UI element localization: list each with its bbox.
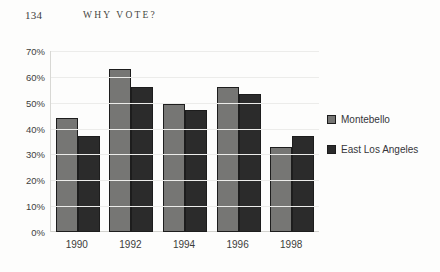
bar-groups <box>51 51 319 232</box>
y-axis-tick-label: 10% <box>26 201 45 212</box>
bar <box>292 136 314 232</box>
gridline <box>51 206 319 207</box>
x-axis-tick-label: 1998 <box>280 239 302 250</box>
y-axis-tick-label: 50% <box>26 97 45 108</box>
legend-swatch-dark-icon <box>327 145 336 154</box>
x-axis-tick-label: 1990 <box>66 239 88 250</box>
bar <box>109 69 131 232</box>
bar <box>56 118 78 232</box>
bar <box>239 94 261 232</box>
legend-label-montebello: Montebello <box>341 114 390 125</box>
plot-area: 0%10%20%30%40%50%60%70% <box>50 51 318 232</box>
legend-item-montebello: Montebello <box>327 114 437 125</box>
gridline <box>51 180 319 181</box>
bar-group <box>158 51 212 232</box>
y-axis-tick-label: 20% <box>26 175 45 186</box>
book-page: 134 WHY VOTE? 0%10%20%30%40%50%60%70% 19… <box>0 0 440 272</box>
legend-label-east-los-angeles: East Los Angeles <box>341 144 418 155</box>
x-axis-tick-label: 1992 <box>119 239 141 250</box>
bar-group <box>51 51 105 232</box>
bar <box>131 87 153 232</box>
bar <box>270 147 292 232</box>
gridline <box>51 103 319 104</box>
x-axis-tick-label: 1996 <box>226 239 248 250</box>
bar-group <box>265 51 319 232</box>
legend-swatch-light-icon <box>327 115 336 124</box>
x-axis-tick-label: 1994 <box>173 239 195 250</box>
y-axis-tick-label: 70% <box>26 46 45 57</box>
bar-group <box>212 51 266 232</box>
bar <box>78 136 100 232</box>
bar <box>163 104 185 232</box>
y-axis-tick-label: 60% <box>26 71 45 82</box>
bar-group <box>105 51 159 232</box>
gridline <box>51 51 319 52</box>
bar <box>217 87 239 232</box>
chart-legend: Montebello East Los Angeles <box>327 114 437 174</box>
legend-item-east-los-angeles: East Los Angeles <box>327 144 437 155</box>
gridline <box>51 154 319 155</box>
y-axis-tick-label: 0% <box>31 227 45 238</box>
gridline <box>51 129 319 130</box>
gridline <box>51 77 319 78</box>
y-axis-tick-label: 30% <box>26 149 45 160</box>
y-axis-tick-label: 40% <box>26 123 45 134</box>
